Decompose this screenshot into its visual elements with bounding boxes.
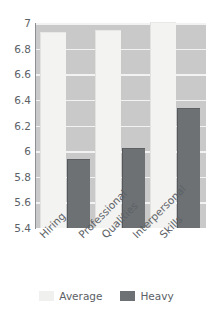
legend-label-average: Average <box>59 290 102 302</box>
y-tick-label: 6.8 <box>14 43 31 55</box>
bar-chart: 7 6.8 6.6 6.4 6.2 6 5.8 5.6 5.4 Hiring <box>0 0 213 316</box>
y-tick-label: 6.4 <box>14 94 31 106</box>
y-tick-label: 5.6 <box>14 196 31 208</box>
gridline <box>36 23 206 25</box>
bar-heavy-hiring <box>67 159 90 228</box>
y-tick-label: 5.8 <box>14 171 31 183</box>
legend-item-heavy: Heavy <box>120 290 173 302</box>
legend-swatch-average-icon <box>39 291 54 301</box>
legend-item-average: Average <box>39 290 102 302</box>
bar-heavy-interpersonal-skills <box>177 108 200 228</box>
y-tick-label: 6.6 <box>14 68 31 80</box>
y-tick-label: 6.2 <box>14 120 31 132</box>
y-tick-label: 6 <box>24 145 31 157</box>
legend-label-heavy: Heavy <box>140 290 173 302</box>
legend: Average Heavy <box>0 290 213 302</box>
legend-swatch-heavy-icon <box>120 291 135 301</box>
y-tick-label: 7 <box>24 17 31 29</box>
x-axis-labels: Hiring Professional Qualities Interperso… <box>0 229 213 287</box>
bar-average-hiring <box>40 32 66 228</box>
